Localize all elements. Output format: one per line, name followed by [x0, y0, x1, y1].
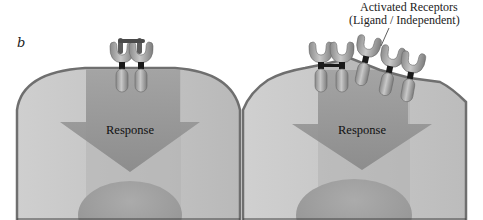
callout-line-2: (Ligand / Independent): [349, 13, 460, 27]
ligand-bridge: [118, 39, 145, 43]
receptor-extracellular-domain: [330, 42, 354, 63]
receptor-intracellular-domain: [135, 69, 147, 92]
receptor-extracellular-domain: [309, 42, 333, 63]
receptor-transmembrane-segment: [138, 62, 144, 69]
callout-leader-line: [381, 28, 389, 46]
left-cell: Response: [17, 66, 240, 220]
receptor-transmembrane-segment: [119, 62, 125, 69]
receptor-extracellular-domain: [399, 50, 426, 75]
left-response-label: Response: [106, 123, 154, 137]
receptor-intracellular-domain: [336, 69, 348, 92]
receptor-extracellular-domain: [354, 34, 382, 60]
callout-line-1: Activated Receptors: [360, 0, 458, 14]
right-response-label: Response: [338, 123, 386, 137]
callout: Activated Receptors (Ligand / Independen…: [349, 0, 460, 46]
receptor-transmembrane-segment: [407, 72, 414, 80]
receptor-intracellular-domain: [315, 69, 327, 92]
receptor-intracellular-domain: [116, 69, 128, 92]
right-cell: Response: [243, 58, 466, 220]
panel-label: b: [17, 35, 25, 50]
dimer-link: [321, 64, 342, 67]
receptor-transmembrane-segment: [362, 56, 369, 64]
receptor-diagram: b Response Response Activated Receptors …: [0, 0, 483, 220]
